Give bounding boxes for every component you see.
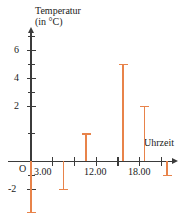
x-axis-line xyxy=(8,161,173,162)
x-tick-15 xyxy=(139,157,140,166)
y-axis-line xyxy=(30,33,31,162)
origin-label: O xyxy=(19,163,26,174)
y-tick-label-minus-2: -2 xyxy=(8,184,16,194)
x-axis-title: Uhrzeit xyxy=(144,137,174,148)
y-tick-6 xyxy=(27,50,36,51)
x-axis-arrow-icon xyxy=(172,158,178,164)
data-bar-2 xyxy=(85,133,87,161)
data-bar-1 xyxy=(63,161,65,190)
x-tick-6 xyxy=(74,157,75,166)
y-axis-unit: (in °C) xyxy=(35,16,63,27)
y-tick-2 xyxy=(27,106,36,107)
y-tick-label-6: 6 xyxy=(14,45,19,55)
data-bar-cap-4 xyxy=(140,106,149,108)
y-tick-1 xyxy=(28,133,35,134)
data-bar-cap-0 xyxy=(27,212,36,214)
data-bar-cap-1 xyxy=(59,189,68,191)
x-tick-9 xyxy=(96,157,97,166)
data-bar-4 xyxy=(144,106,146,161)
temperature-chart: Temperatur (in °C) Uhrzeit O 6 4 2 -2 3.… xyxy=(0,0,189,217)
y-tick-7 xyxy=(28,36,35,37)
x-tick-12 xyxy=(117,157,118,166)
data-bar-3 xyxy=(122,64,124,161)
x-tick-3 xyxy=(52,157,53,166)
y-tick-4 xyxy=(27,78,36,79)
data-bar-cap-5 xyxy=(163,175,172,177)
y-axis-arrow-icon xyxy=(28,27,34,33)
y-tick-5 xyxy=(28,64,35,65)
x-tick-label-18: 18.00 xyxy=(128,167,151,177)
data-bar-cap-2 xyxy=(82,133,91,135)
data-bar-cap-3 xyxy=(119,64,128,66)
y-axis-title: Temperatur xyxy=(35,5,81,16)
y-tick-label-4: 4 xyxy=(14,73,19,83)
x-tick-label-3: 3.00 xyxy=(34,167,52,177)
x-tick-label-12: 12.00 xyxy=(84,167,107,177)
data-bar-0 xyxy=(30,161,32,213)
y-tick-label-2: 2 xyxy=(14,101,19,111)
x-tick-18 xyxy=(161,157,162,166)
y-tick-3 xyxy=(28,92,35,93)
